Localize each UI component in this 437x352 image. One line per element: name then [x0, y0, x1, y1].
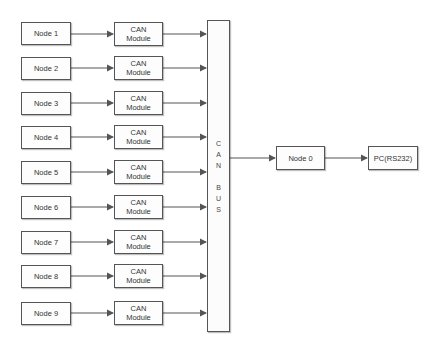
node-label: Node 7 [34, 238, 58, 247]
can-module-5-box: CANModule [114, 160, 163, 184]
can-bus: C A N B U S [207, 20, 230, 332]
bus-letter: C [216, 138, 221, 149]
node-0-label: Node 0 [288, 154, 312, 163]
bus-letter: N [216, 160, 221, 171]
pc-rs232-box: PC(RS232) [368, 146, 418, 170]
can-module-1-box: CANModule [114, 22, 163, 46]
node-0-box: Node 0 [276, 146, 325, 170]
module-label-line1: CAN [131, 198, 147, 207]
node-label: Node 3 [34, 99, 58, 108]
pc-label: PC(RS232) [374, 154, 412, 163]
node-label: Node 9 [34, 309, 58, 318]
module-label-line1: CAN [131, 25, 147, 34]
module-label-line1: CAN [131, 267, 147, 276]
module-label-line2: Module [126, 276, 151, 285]
node-6-box: Node 6 [21, 196, 71, 219]
node-label: Node 6 [34, 203, 58, 212]
can-module-6-box: CANModule [114, 195, 163, 219]
node-4-box: Node 4 [21, 126, 71, 149]
module-label-line2: Module [126, 34, 151, 43]
node-label: Node 4 [34, 133, 58, 142]
node-1-box: Node 1 [21, 22, 71, 45]
node-label: Node 2 [34, 64, 58, 73]
module-label-line1: CAN [131, 128, 147, 137]
node-8-box: Node 8 [21, 265, 71, 288]
module-label-line2: Module [126, 242, 151, 251]
node-9-box: Node 9 [21, 302, 71, 325]
node-3-box: Node 3 [21, 92, 71, 115]
module-label-line2: Module [126, 68, 151, 77]
bus-letter: U [216, 193, 221, 204]
node-label: Node 5 [34, 168, 58, 177]
module-label-line2: Module [126, 313, 151, 322]
can-module-3-box: CANModule [114, 91, 163, 115]
node-7-box: Node 7 [21, 231, 71, 254]
bus-letter: B [216, 182, 221, 193]
node-5-box: Node 5 [21, 161, 71, 184]
bus-letter: S [216, 204, 221, 215]
can-module-7-box: CANModule [114, 230, 163, 254]
node-label: Node 1 [34, 29, 58, 38]
module-label-line1: CAN [131, 163, 147, 172]
can-module-2-box: CANModule [114, 56, 163, 80]
module-label-line1: CAN [131, 94, 147, 103]
can-module-4-box: CANModule [114, 125, 163, 149]
bus-letter: A [216, 149, 221, 160]
module-label-line2: Module [126, 137, 151, 146]
can-module-8-box: CANModule [114, 264, 163, 288]
module-label-line1: CAN [131, 233, 147, 242]
module-label-line2: Module [126, 172, 151, 181]
can-module-9-box: CANModule [114, 301, 163, 325]
module-label-line1: CAN [131, 59, 147, 68]
node-2-box: Node 2 [21, 57, 71, 80]
module-label-line2: Module [126, 207, 151, 216]
module-label-line1: CAN [131, 304, 147, 313]
module-label-line2: Module [126, 103, 151, 112]
node-label: Node 8 [34, 272, 58, 281]
